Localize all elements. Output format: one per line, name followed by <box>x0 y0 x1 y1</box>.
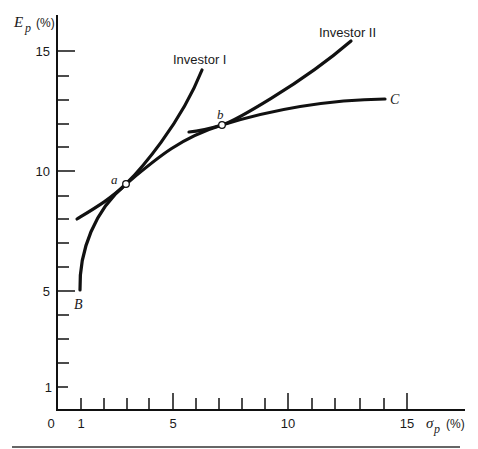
y-axis-title: E p (%) <box>13 14 55 35</box>
svg-text:σ: σ <box>426 415 434 431</box>
point-B-label: B <box>74 297 83 312</box>
efficient-frontier-chart: 15 10 5 1 0 1 5 10 15 E p (%) σ p (%) a … <box>0 0 478 449</box>
point-a-label: a <box>111 172 118 187</box>
investor-2-label: Investor II <box>319 25 376 40</box>
svg-text:(%): (%) <box>446 417 465 431</box>
point-b-label: b <box>217 107 224 122</box>
y-axis <box>57 15 75 411</box>
point-C-label: C <box>390 92 400 107</box>
svg-text:E: E <box>13 14 23 30</box>
investor-1-label: Investor I <box>173 52 226 67</box>
efficient-frontier-curve <box>80 99 385 290</box>
investor-1-indifference-curve <box>77 70 202 219</box>
x-tick-label-5: 5 <box>169 416 176 431</box>
svg-text:(%): (%) <box>36 16 55 30</box>
y-tick-label-1: 1 <box>45 380 52 395</box>
y-tick-label-10: 10 <box>36 164 50 179</box>
x-origin-label: 0 <box>47 416 54 431</box>
svg-text:p: p <box>24 21 31 35</box>
x-axis <box>56 393 465 410</box>
y-tick-label-5: 5 <box>43 284 50 299</box>
point-a-marker <box>123 181 130 188</box>
x-tick-label-1: 1 <box>77 416 84 431</box>
point-b-marker <box>219 122 226 129</box>
x-axis-title: σ p (%) <box>426 415 465 436</box>
x-tick-label-10: 10 <box>281 416 295 431</box>
svg-text:p: p <box>433 422 440 436</box>
y-tick-label-15: 15 <box>36 44 50 59</box>
x-tick-label-15: 15 <box>400 416 414 431</box>
